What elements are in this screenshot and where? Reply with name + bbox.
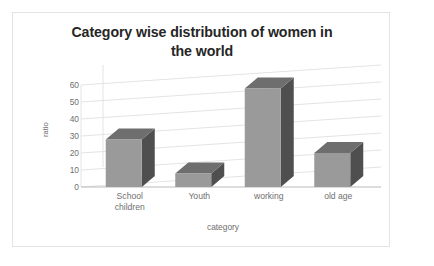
y-axis-title: ratio xyxy=(41,122,50,137)
bar-series xyxy=(106,77,364,187)
y-tick-label-40: 40 xyxy=(70,114,79,124)
y-tick-label-20: 20 xyxy=(70,148,79,158)
bar-0 xyxy=(106,128,155,187)
x-tick-label-3: old age xyxy=(303,191,373,202)
y-tick-label-50: 50 xyxy=(70,97,79,107)
x-axis-tick-labels: School childrenYouthworkingold age xyxy=(65,191,381,221)
y-tick-label-30: 30 xyxy=(70,131,79,141)
bar-2 xyxy=(245,77,294,187)
x-axis-title: category xyxy=(65,222,381,232)
x-tick-label-1: Youth xyxy=(164,191,234,202)
y-axis-tick-labels: 6050403020100 xyxy=(53,85,79,187)
bar-1 xyxy=(175,162,224,187)
y-tick-label-60: 60 xyxy=(70,80,79,90)
bar-3 xyxy=(314,142,363,187)
chart-frame: Category wise distribution of women in t… xyxy=(12,12,390,247)
x-tick-label-2: working xyxy=(234,191,304,202)
y-tick-label-10: 10 xyxy=(70,165,79,175)
x-tick-label-0: School children xyxy=(95,191,165,213)
